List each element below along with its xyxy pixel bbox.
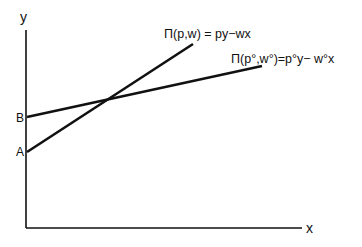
- x-axis-label: x: [306, 220, 313, 236]
- y-axis-label: y: [20, 9, 27, 25]
- profit-line-pw-label: Π(p,w) = py−wx: [164, 27, 252, 41]
- intercept-label-a: A: [16, 145, 24, 159]
- intercept-label-b: B: [16, 111, 24, 125]
- profit-line-p0w0: [27, 66, 262, 117]
- profit-line-p0w0-label: Π(p°,w°)=p°y− w°x: [231, 52, 335, 66]
- isoprofit-diagram: y x B A Π(p,w) = py−wx Π(p°,w°)=p°y− w°x: [0, 0, 362, 247]
